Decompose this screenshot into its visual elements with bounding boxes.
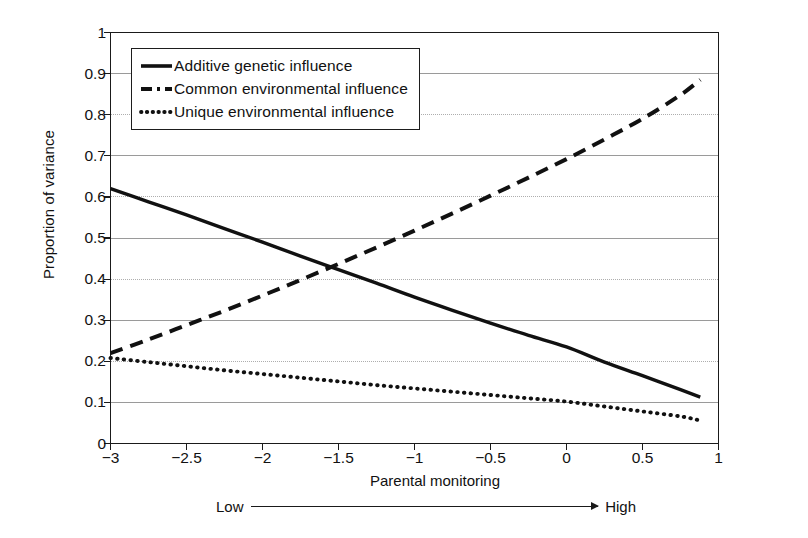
x-tick-label: −1 bbox=[385, 449, 445, 467]
x-tick-label: 0.5 bbox=[613, 449, 673, 467]
y-tick-label: 0.8 bbox=[60, 106, 106, 124]
legend-label: Common environmental influence bbox=[174, 80, 408, 98]
legend-item-2: Unique environmental influence bbox=[140, 100, 408, 123]
y-tick-label: 0.9 bbox=[60, 65, 106, 83]
y-tick-label: 0.3 bbox=[60, 311, 106, 329]
x-tick-label: −2 bbox=[233, 449, 293, 467]
chart-figure: Proportion of variance 00.10.20.30.40.50… bbox=[0, 0, 808, 538]
legend-swatch-dotted-icon bbox=[140, 105, 173, 119]
y-tick-label: 0.7 bbox=[60, 147, 106, 165]
y-tick-label: 1 bbox=[60, 24, 106, 42]
range-low-label: Low bbox=[216, 498, 244, 515]
series-line-0 bbox=[111, 189, 701, 397]
legend-swatch-dashed-icon bbox=[140, 82, 173, 96]
x-tick-label: −3 bbox=[81, 449, 141, 467]
y-tick-label: 0.4 bbox=[60, 270, 106, 288]
x-tick-label: −0.5 bbox=[461, 449, 521, 467]
series-line-2 bbox=[111, 358, 701, 420]
x-tick-label: −2.5 bbox=[157, 449, 217, 467]
legend-swatch-solid-icon bbox=[140, 59, 173, 73]
x-axis-tick-labels: −3−2.5−2−1.5−1−0.500.51 bbox=[0, 449, 808, 473]
range-high-label: High bbox=[605, 498, 636, 515]
legend-item-0: Additive genetic influence bbox=[140, 54, 408, 77]
y-tick-label: 0.1 bbox=[60, 393, 106, 411]
legend-item-1: Common environmental influence bbox=[140, 77, 408, 100]
legend-label: Unique environmental influence bbox=[174, 103, 394, 121]
x-tick-label: 1 bbox=[689, 449, 749, 467]
data-series-group bbox=[111, 80, 701, 421]
x-tick-label: 0 bbox=[537, 449, 597, 467]
range-arrow-icon bbox=[251, 506, 599, 507]
x-axis-title: Parental monitoring bbox=[310, 472, 560, 489]
y-tick-label: 0.5 bbox=[60, 229, 106, 247]
y-tick-label: 0.2 bbox=[60, 352, 106, 370]
x-tick-label: −1.5 bbox=[309, 449, 369, 467]
legend-label: Additive genetic influence bbox=[174, 57, 352, 75]
monitoring-range-annotation: Low High bbox=[216, 494, 636, 518]
y-tick-label: 0.6 bbox=[60, 188, 106, 206]
chart-legend: Additive genetic influenceCommon environ… bbox=[131, 48, 420, 130]
